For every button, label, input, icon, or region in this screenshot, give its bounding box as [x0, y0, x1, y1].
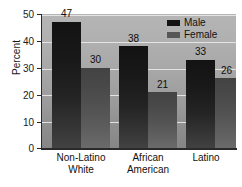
y-tick-label: 10: [23, 117, 34, 129]
bar-chart: Percent 50 40 30 20 10 0: [0, 0, 242, 187]
value-label-female-non-latino-white: 30: [81, 54, 110, 65]
legend-item-male: Male: [167, 17, 217, 28]
female-swatch-icon: [167, 32, 180, 38]
value-label-male-latino: 33: [186, 46, 215, 57]
x-label-line2: American: [109, 164, 187, 176]
bar-female-non-latino-white: [81, 68, 110, 148]
legend-label-male: Male: [184, 17, 206, 28]
y-tick-50: 50: [0, 9, 42, 21]
bar-male-non-latino-white: [52, 22, 81, 148]
y-axis-ticks: 50 40 30 20 10 0: [0, 0, 42, 187]
legend-item-female: Female: [167, 29, 217, 40]
x-label-latino: Latino: [176, 152, 236, 164]
y-tick-30: 30: [0, 63, 42, 75]
x-axis-line: [41, 148, 237, 150]
bar-male-latino: [186, 60, 215, 148]
y-tick-label: 20: [23, 90, 34, 102]
bar-male-african-american: [119, 46, 148, 148]
value-label-female-latino: 26: [213, 65, 240, 76]
y-tick-label: 30: [23, 63, 34, 75]
y-tick-40: 40: [0, 36, 42, 48]
y-tick-20: 20: [0, 90, 42, 102]
y-tick-label: 40: [23, 36, 34, 48]
legend: Male Female: [167, 17, 217, 41]
value-label-male-non-latino-white: 47: [52, 8, 81, 19]
x-axis-labels: Non-Latino White African American Latino: [42, 152, 236, 187]
y-tick-label: 50: [23, 9, 34, 21]
male-swatch-icon: [167, 20, 180, 26]
value-label-female-african-american: 21: [148, 79, 177, 90]
y-tick-10: 10: [0, 117, 42, 129]
bar-female-latino: [215, 78, 236, 148]
bar-female-african-american: [148, 92, 177, 148]
legend-label-female: Female: [184, 29, 217, 40]
y-tick-0: 0: [0, 143, 42, 155]
x-label-line1: Latino: [176, 152, 236, 164]
value-label-male-african-american: 38: [119, 33, 148, 44]
y-tick-label: 0: [28, 143, 34, 155]
